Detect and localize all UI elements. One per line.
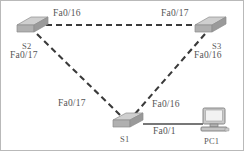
device-icon-s1[interactable]: [113, 113, 143, 127]
network-topology-diagram: Fa0/16 Fa0/17 Fa0/17 Fa0/16 Fa0/17 Fa0/1…: [0, 0, 244, 151]
device-label-s3: S3: [212, 42, 221, 51]
device-icon-pc1[interactable]: [201, 108, 229, 131]
device-label-s1: S1: [120, 135, 129, 144]
port-label-s3-top: Fa0/17: [161, 9, 189, 19]
topology-canvas: [1, 1, 244, 151]
link-layer: [37, 25, 205, 124]
port-label-s3-side: Fa0/16: [194, 51, 222, 61]
device-label-pc1: PC1: [204, 137, 219, 146]
device-icon-s3[interactable]: [195, 17, 226, 32]
device-icon-s2[interactable]: [17, 17, 48, 32]
port-label-s1-pc1: Fa0/1: [153, 127, 176, 137]
port-label-s2-top: Fa0/16: [53, 9, 81, 19]
device-label-s2: S2: [22, 42, 31, 51]
port-label-s1-right: Fa0/16: [152, 100, 180, 110]
port-label-s2-side: Fa0/17: [10, 51, 38, 61]
port-label-s1-left: Fa0/17: [58, 99, 86, 109]
